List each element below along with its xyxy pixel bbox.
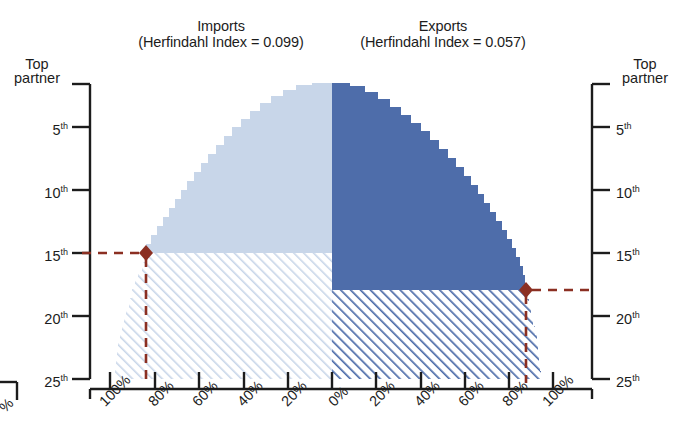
exports-hatched-area <box>332 290 541 379</box>
y-axis-left <box>72 84 90 379</box>
y-left-tick-5: 5th <box>28 119 68 137</box>
y-left-tick-25: 25th <box>20 371 68 389</box>
y-right-tick-10: 10th <box>616 182 640 200</box>
y-right-tick-15: 15th <box>616 245 640 263</box>
y-right-tick-25: 25th <box>616 371 640 389</box>
y-left-tick-10: 10th <box>20 182 68 200</box>
y-left-top-partner-label: Top partner <box>6 58 68 85</box>
y-right-top-partner-label: Top partner <box>614 58 676 85</box>
imports-solid-area <box>146 83 332 253</box>
y-left-tick-20: 20th <box>20 308 68 326</box>
y-right-tick-5: 5th <box>616 119 632 137</box>
y-right-tick-20: 20th <box>616 308 640 326</box>
exports-solid-area <box>332 83 526 290</box>
imports-hatched-area <box>115 253 332 379</box>
plot-svg <box>0 0 680 448</box>
y-left-tick-15: 15th <box>20 245 68 263</box>
y-axis-right <box>592 84 610 379</box>
chart-canvas: Imports (Herfindahl Index = 0.099) Expor… <box>0 0 680 448</box>
